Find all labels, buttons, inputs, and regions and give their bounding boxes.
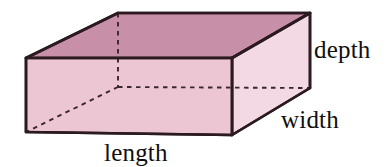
label-width: width [281, 107, 339, 132]
box-illustration [0, 0, 390, 167]
rectangular-prism-figure: depth width length [0, 0, 390, 167]
label-length: length [104, 140, 168, 165]
front-face [26, 58, 232, 135]
label-depth: depth [314, 37, 371, 62]
